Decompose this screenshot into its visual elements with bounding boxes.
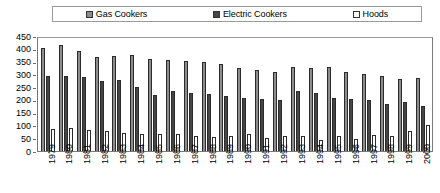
bar-gas-cookers[interactable] [112, 56, 116, 151]
bar-group [77, 38, 91, 151]
bar-group [273, 38, 287, 151]
x-axis-tick-label: 1982 [101, 144, 110, 164]
x-axis-tick: 1988 [201, 153, 216, 193]
bar-gas-cookers[interactable] [416, 78, 420, 151]
bar-electric-cookers[interactable] [117, 80, 121, 151]
bar-electric-cookers[interactable] [100, 81, 104, 151]
x-axis-tick: 1993 [290, 153, 305, 193]
bar-electric-cookers[interactable] [171, 91, 175, 151]
bar-electric-cookers[interactable] [296, 91, 300, 151]
y-axis-tick-label: 250 [16, 84, 31, 93]
x-axis-tick-label: 1992 [280, 144, 289, 164]
bar-electric-cookers[interactable] [207, 94, 211, 151]
bar-electric-cookers[interactable] [189, 93, 193, 151]
x-axis-tick: 1984 [129, 153, 144, 193]
legend-label-gas-cookers: Gas Cookers [96, 10, 147, 19]
bar-gas-cookers[interactable] [184, 61, 188, 151]
bar-gas-cookers[interactable] [77, 51, 81, 151]
bar-group [362, 38, 376, 151]
bar-gas-cookers[interactable] [41, 48, 45, 152]
x-axis-tick: 1980 [58, 153, 73, 193]
x-axis-tick: 1997 [362, 153, 377, 193]
bar-gas-cookers[interactable] [291, 67, 295, 151]
x-axis-tick-label: 1985 [155, 144, 164, 164]
electric-cookers-swatch [213, 11, 220, 18]
x-axis-tick: 1999 [398, 153, 413, 193]
y-axis-tick-mark [33, 37, 36, 38]
bar-electric-cookers[interactable] [153, 95, 157, 151]
y-axis-tick-label: 450 [16, 33, 31, 42]
bar-group [237, 38, 251, 151]
bar-gas-cookers[interactable] [327, 67, 331, 151]
bar-group [148, 38, 162, 151]
bar-group [184, 38, 198, 151]
y-axis-tick-label: 400 [16, 45, 31, 54]
bar-gas-cookers[interactable] [255, 70, 259, 151]
bar-gas-cookers[interactable] [59, 45, 63, 151]
y-axis-tick-label: 200 [16, 96, 31, 105]
x-axis-tick-label: 1981 [83, 144, 92, 164]
bar-group [59, 38, 73, 151]
bar-gas-cookers[interactable] [362, 74, 366, 151]
x-axis-tick: 1989 [219, 153, 234, 193]
bar-gas-cookers[interactable] [95, 57, 99, 151]
x-axis-tick-label: 1997 [370, 144, 379, 164]
x-axis-tick: 2000 [416, 153, 431, 193]
bar-gas-cookers[interactable] [148, 59, 152, 151]
x-axis-tick-label: 1989 [226, 144, 235, 164]
y-axis-tick-label: 0 [26, 148, 31, 157]
bar-groups-container [38, 38, 432, 151]
bar-gas-cookers[interactable] [309, 68, 313, 151]
y-axis-tick-label: 50 [21, 135, 31, 144]
bar-electric-cookers[interactable] [64, 76, 68, 151]
bar-group [202, 38, 216, 151]
x-axis-tick: 1982 [94, 153, 109, 193]
y-axis-tick-mark [33, 126, 36, 127]
chart-legend: Gas Cookers Electric Cookers Hoods [52, 6, 422, 22]
y-axis-tick-mark [33, 152, 36, 153]
bar-electric-cookers[interactable] [46, 76, 50, 151]
x-axis-tick: 1995 [326, 153, 341, 193]
bar-gas-cookers[interactable] [380, 76, 384, 151]
x-axis-tick-label: 1998 [387, 144, 396, 164]
x-axis-tick: 1983 [112, 153, 127, 193]
x-axis-tick: 1987 [183, 153, 198, 193]
y-axis-tick-mark [33, 88, 36, 89]
bar-gas-cookers[interactable] [398, 79, 402, 151]
x-axis-tick: 1996 [344, 153, 359, 193]
y-axis-tick-label: 100 [16, 122, 31, 131]
bar-gas-cookers[interactable] [344, 72, 348, 151]
x-axis-tick-label: 1984 [137, 144, 146, 164]
y-axis: 050100150200250300350400450 [0, 33, 34, 156]
bar-gas-cookers[interactable] [130, 55, 134, 151]
x-axis-tick: 1990 [237, 153, 252, 193]
bar-electric-cookers[interactable] [82, 77, 86, 151]
bar-gas-cookers[interactable] [237, 68, 241, 151]
x-axis-tick-label: 1987 [191, 144, 200, 164]
x-axis-tick-label: 2000 [423, 144, 432, 164]
x-axis-tick: 1992 [273, 153, 288, 193]
x-axis: 1979198019811982198319841985198619871988… [37, 153, 433, 193]
x-axis-tick-label: 1993 [298, 144, 307, 164]
bar-group [166, 38, 180, 151]
bar-electric-cookers[interactable] [135, 87, 139, 151]
bar-electric-cookers[interactable] [314, 93, 318, 151]
legend-item-hoods[interactable]: Hoods [353, 10, 389, 19]
bar-electric-cookers[interactable] [224, 96, 228, 151]
x-axis-tick-label: 1979 [48, 144, 57, 164]
y-axis-tick-mark [33, 139, 36, 140]
bar-group [327, 38, 341, 151]
bar-gas-cookers[interactable] [273, 72, 277, 151]
bar-group [344, 38, 358, 151]
bar-gas-cookers[interactable] [202, 62, 206, 151]
bar-group [41, 38, 55, 151]
legend-item-gas-cookers[interactable]: Gas Cookers [86, 10, 147, 19]
bar-gas-cookers[interactable] [166, 60, 170, 151]
x-axis-tick: 1981 [76, 153, 91, 193]
x-axis-tick: 1991 [255, 153, 270, 193]
bar-gas-cookers[interactable] [219, 64, 223, 151]
y-axis-tick-mark [33, 75, 36, 76]
legend-item-electric-cookers[interactable]: Electric Cookers [213, 10, 287, 19]
bar-chart: Gas Cookers Electric Cookers Hoods 05010… [0, 0, 440, 193]
bar-group [130, 38, 144, 151]
